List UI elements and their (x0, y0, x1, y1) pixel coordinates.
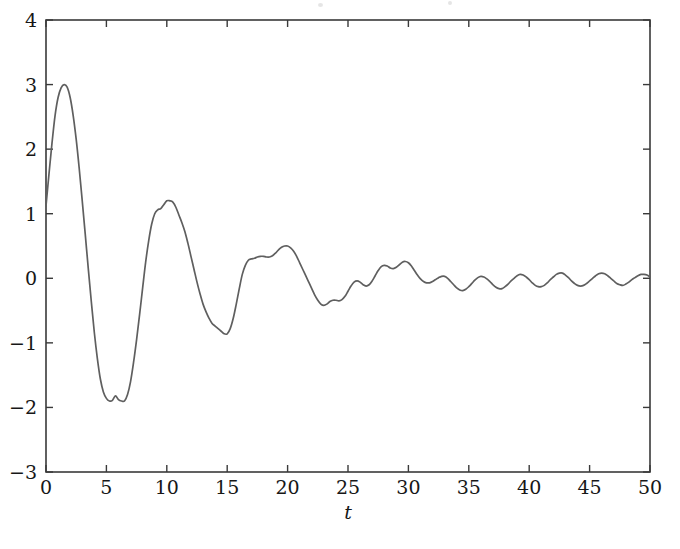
y-tick-label: 4 (25, 9, 37, 31)
x-tick-label: 0 (40, 476, 52, 498)
x-axis-ticks (46, 20, 650, 472)
y-tick-label: 0 (25, 267, 37, 289)
y-axis-ticks (46, 20, 650, 472)
x-axis-label: t (344, 501, 352, 523)
x-tick-label: 10 (155, 476, 179, 498)
x-tick-label: 40 (517, 476, 541, 498)
x-axis-tick-labels: 05101520253035404550 (40, 476, 662, 498)
scan-artifact-speck (448, 1, 452, 5)
x-tick-label: 45 (578, 476, 602, 498)
x-tick-label: 15 (215, 476, 239, 498)
y-tick-label: −2 (9, 396, 37, 418)
y-tick-label: 1 (25, 203, 37, 225)
y-tick-label: −1 (9, 332, 37, 354)
y-axis-tick-labels: −3−2−101234 (9, 9, 37, 483)
y-tick-label: −3 (9, 461, 37, 483)
x-tick-label: 5 (100, 476, 112, 498)
y-tick-label: 2 (25, 138, 37, 160)
data-series-line (46, 85, 650, 402)
x-tick-label: 50 (638, 476, 662, 498)
plot-frame (46, 20, 650, 472)
y-tick-label: 3 (25, 74, 37, 96)
plot-canvas: 05101520253035404550 −3−2−101234 t (0, 0, 680, 549)
scan-artifact-speck (318, 3, 323, 7)
x-tick-label: 30 (396, 476, 420, 498)
x-tick-label: 35 (457, 476, 481, 498)
chart-figure: 05101520253035404550 −3−2−101234 t (0, 0, 680, 549)
x-tick-label: 25 (336, 476, 360, 498)
x-tick-label: 20 (276, 476, 300, 498)
